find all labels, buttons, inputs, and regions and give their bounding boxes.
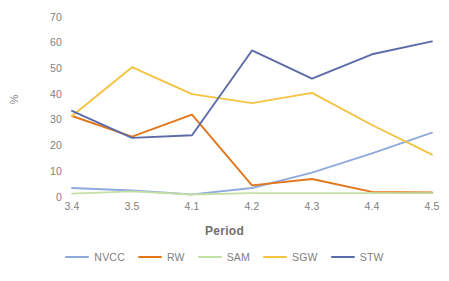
legend-label: SGW — [292, 251, 318, 263]
chart-legend: NVCCRWSAMSGWSTW — [0, 251, 449, 263]
x-axis-tick-labels: 3.43.54.14.24.34.44.5 — [0, 200, 449, 216]
y-axis-title: % — [8, 95, 20, 104]
legend-label: RW — [167, 251, 185, 263]
y-axis-tick: 70 — [20, 12, 62, 23]
y-axis-tick: 30 — [20, 114, 62, 125]
x-axis-tick: 4.3 — [304, 200, 319, 212]
legend-item-sgw[interactable]: SGW — [263, 251, 318, 263]
legend-item-nvcc[interactable]: NVCC — [65, 251, 125, 263]
x-axis-tick: 3.4 — [64, 200, 79, 212]
legend-item-stw[interactable]: STW — [331, 251, 384, 263]
x-axis-title: Period — [0, 224, 449, 238]
plot-area — [0, 0, 449, 281]
series-line-stw — [72, 41, 432, 137]
plot-svg — [0, 0, 449, 281]
legend-swatch-icon — [263, 256, 287, 258]
y-axis-tick: 50 — [20, 63, 62, 74]
line-chart: 010203040506070 3.43.54.14.24.34.44.5 % … — [0, 0, 449, 281]
y-axis-tick: 40 — [20, 89, 62, 100]
legend-label: STW — [360, 251, 384, 263]
legend-label: NVCC — [94, 251, 125, 263]
legend-swatch-icon — [65, 256, 89, 258]
legend-item-rw[interactable]: RW — [138, 251, 185, 263]
x-axis-tick: 4.1 — [184, 200, 199, 212]
y-axis-tick-labels: 010203040506070 — [20, 0, 62, 281]
legend-swatch-icon — [198, 256, 222, 258]
series-line-rw — [72, 115, 432, 193]
legend-label: SAM — [227, 251, 250, 263]
legend-swatch-icon — [331, 256, 355, 258]
x-axis-tick: 4.2 — [244, 200, 259, 212]
x-axis-tick: 3.5 — [124, 200, 139, 212]
y-axis-tick: 20 — [20, 140, 62, 151]
legend-item-sam[interactable]: SAM — [198, 251, 250, 263]
y-axis-tick: 60 — [20, 37, 62, 48]
x-axis-tick: 4.5 — [424, 200, 439, 212]
x-axis-tick: 4.4 — [364, 200, 379, 212]
y-axis-tick: 10 — [20, 166, 62, 177]
series-line-sgw — [72, 67, 432, 154]
legend-swatch-icon — [138, 256, 162, 258]
